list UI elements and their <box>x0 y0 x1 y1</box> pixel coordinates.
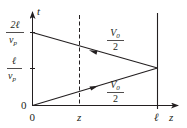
arrow-left-icon <box>89 50 98 54</box>
tick-l-numerator: ℓ <box>12 55 16 66</box>
tick-l-denominator: vp <box>8 70 16 83</box>
bounce-diagram: t z 0 0 ℓ vp 2ℓ vp z ℓ V0 2 <box>0 0 187 128</box>
incident-wave-numerator: V0 <box>110 79 120 92</box>
tick-l-over-vp: ℓ vp <box>7 55 35 83</box>
incident-wave-denominator: 2 <box>113 93 118 104</box>
reflected-wave-denominator: 2 <box>113 41 118 52</box>
origin-t-label: 0 <box>21 99 27 111</box>
z-position-label: z <box>76 111 82 123</box>
tick-2l-numerator: 2ℓ <box>10 19 19 30</box>
incident-wave: V0 2 <box>33 68 158 106</box>
tick-2l-over-vp: 2ℓ vp <box>6 19 35 47</box>
origin-z-label: 0 <box>30 111 36 123</box>
arrow-right-icon <box>90 86 99 91</box>
tick-2l-denominator: vp <box>9 34 17 47</box>
line-end-label: ℓ <box>154 111 159 123</box>
t-axis-label: t <box>37 5 41 17</box>
t-axis: t <box>33 5 42 106</box>
reflected-wave: V0 2 <box>33 27 158 68</box>
z-axis-label: z <box>168 111 174 123</box>
z-position-marker: z <box>76 15 82 123</box>
reflected-wave-numerator: V0 <box>110 27 120 40</box>
